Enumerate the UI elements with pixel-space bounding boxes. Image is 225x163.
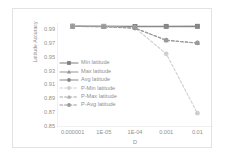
legend-item: P-Min latitude xyxy=(59,84,147,92)
x-tick-label: 0.000001 xyxy=(61,130,84,136)
y-tick-label: 0.87 xyxy=(27,110,55,116)
y-tick-label: 0.99 xyxy=(27,27,55,33)
legend-label: Min latitude xyxy=(79,60,110,66)
y-tick-label: 0.89 xyxy=(27,96,55,102)
legend-label: Avg latitude xyxy=(79,77,110,83)
y-tick-label: 0.85 xyxy=(27,124,55,130)
x-tick-label: 0.01 xyxy=(192,130,203,136)
legend-swatch-max-latitude xyxy=(59,68,79,76)
x-tick-label: 1E-04 xyxy=(128,130,143,136)
legend-swatch-p-min-latitude xyxy=(59,84,79,92)
legend-item: Min latitude xyxy=(59,59,147,67)
legend-swatch-p-avg-latitude xyxy=(59,101,79,109)
y-tick-label: 0.97 xyxy=(27,41,55,47)
x-tick-label: 0.001 xyxy=(159,130,173,136)
legend-item: Max latitude xyxy=(59,67,147,75)
legend-label: P-Max latitude xyxy=(79,94,117,100)
legend-label: P-Min latitude xyxy=(79,86,115,92)
y-tick-label: 0.91 xyxy=(27,82,55,88)
y-axis-tick-labels: 0.99 0.97 0.95 0.93 0.91 0.89 0.87 0.85 xyxy=(27,23,55,127)
legend-swatch-p-max-latitude xyxy=(59,93,79,101)
legend-item: P-Max latitude xyxy=(59,93,147,101)
y-tick-label: 0.95 xyxy=(27,55,55,61)
chart-frame: Latitude Accuracy 0.99 0.97 0.95 0.93 0.… xyxy=(12,8,212,148)
legend-swatch-min-latitude xyxy=(59,59,79,67)
chart-figure: Latitude Accuracy 0.99 0.97 0.95 0.93 0.… xyxy=(0,0,225,163)
legend-label: Max latitude xyxy=(79,69,111,75)
x-tick-label: 1E-05 xyxy=(96,130,111,136)
legend-item: P-Avg latitude xyxy=(59,101,147,109)
legend-item: Avg latitude xyxy=(59,76,147,84)
legend-swatch-avg-latitude xyxy=(59,76,79,84)
chart-legend: Min latitude Max latitude Avg latitude P… xyxy=(59,59,147,109)
x-axis-title: D xyxy=(57,140,213,146)
y-tick-label: 0.93 xyxy=(27,69,55,75)
legend-label: P-Avg latitude xyxy=(79,102,116,108)
